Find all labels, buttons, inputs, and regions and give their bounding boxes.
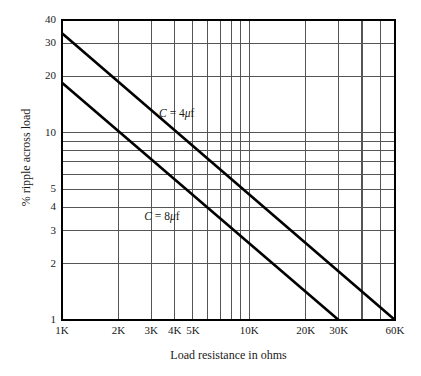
x-tick-label-30K: 30K xyxy=(319,325,359,336)
x-tick-label-5K: 5K xyxy=(173,325,213,336)
y-tick-label-1: 1 xyxy=(20,314,56,325)
plot-area xyxy=(0,0,421,376)
y-axis-title: % ripple across load xyxy=(19,88,34,228)
axis-frame xyxy=(62,20,395,320)
x-tick-label-10K: 10K xyxy=(229,325,269,336)
series-label-c-4uf: C = 4μf xyxy=(159,107,194,119)
x-axis-title: Load resistance in ohms xyxy=(62,348,395,363)
y-tick-label-2: 2 xyxy=(20,258,56,269)
series-label-c-8uf: C = 8μf xyxy=(144,210,179,222)
x-tick-label-1K: 1K xyxy=(42,325,82,336)
x-tick-label-60K: 60K xyxy=(375,325,415,336)
y-tick-label-30: 30 xyxy=(20,37,56,48)
ripple-vs-load-resistance-chart: 1234510203040 1K2K3K4K5K10K20K30K60K % r… xyxy=(0,0,421,376)
y-tick-label-40: 40 xyxy=(20,14,56,25)
y-tick-label-20: 20 xyxy=(20,70,56,81)
